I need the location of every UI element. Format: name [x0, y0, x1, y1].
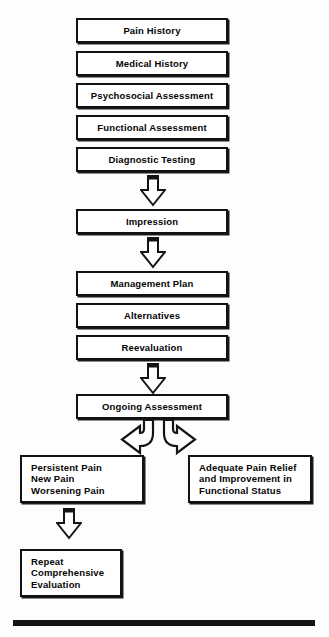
node-label: Reevaluation [118, 342, 187, 354]
node-label: Psychosocial Assessment [87, 90, 217, 102]
node-functional-assessment: Functional Assessment [76, 115, 228, 140]
node-ongoing-assessment: Ongoing Assessment [76, 394, 228, 419]
node-pain-history: Pain History [76, 18, 228, 43]
node-label: Persistent Pain New Pain Worsening Pain [22, 462, 109, 497]
footer-rule [13, 620, 315, 626]
node-label: Ongoing Assessment [98, 401, 206, 413]
arrow-ongoing-to-persistent [100, 419, 155, 455]
node-label: Alternatives [120, 310, 184, 322]
node-label: Functional Assessment [93, 122, 210, 134]
node-label: Medical History [112, 58, 192, 70]
node-impression: Impression [76, 209, 228, 234]
node-psychosocial-assessment: Psychosocial Assessment [76, 83, 228, 108]
arrow-impression-to-management [140, 237, 166, 269]
node-medical-history: Medical History [76, 51, 228, 76]
arrow-diagnostic-to-impression [140, 175, 166, 207]
node-label: Management Plan [106, 278, 197, 290]
arrow-persistent-to-repeat [56, 508, 82, 540]
flowchart-page: Pain History Medical History Psychosocia… [0, 0, 329, 637]
node-adequate-relief: Adequate Pain Relief and Improvement in … [188, 455, 312, 503]
node-persistent-pain: Persistent Pain New Pain Worsening Pain [20, 455, 144, 503]
node-label: Diagnostic Testing [105, 154, 200, 166]
arrow-reevaluation-to-ongoing [140, 363, 166, 395]
node-label: Adequate Pain Relief and Improvement in … [190, 462, 301, 497]
node-management-plan: Management Plan [76, 271, 228, 296]
arrow-ongoing-to-adequate [162, 419, 217, 455]
node-alternatives: Alternatives [76, 303, 228, 328]
node-label: Repeat Comprehensive Evaluation [22, 556, 108, 591]
node-label: Pain History [119, 25, 184, 37]
node-diagnostic-testing: Diagnostic Testing [76, 147, 228, 172]
node-repeat-evaluation: Repeat Comprehensive Evaluation [20, 549, 122, 597]
node-label: Impression [122, 216, 182, 228]
node-reevaluation: Reevaluation [76, 335, 228, 360]
